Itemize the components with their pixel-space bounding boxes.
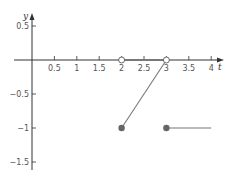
x-tick-label: 2.5 bbox=[138, 64, 151, 73]
y-tick-label: −0.5 bbox=[10, 90, 29, 99]
y-axis-title: y bbox=[22, 11, 29, 21]
y-tick-label: −1.5 bbox=[10, 158, 29, 167]
x-tick-label: 0.5 bbox=[48, 64, 61, 73]
x-tick-label: 2 bbox=[119, 64, 124, 73]
x-tick-label: 1.5 bbox=[93, 64, 106, 73]
axes: ty bbox=[14, 11, 224, 170]
x-tick-label: 3 bbox=[164, 64, 169, 73]
x-tick-label: 1 bbox=[74, 64, 79, 73]
x-axis-title: t bbox=[218, 62, 222, 72]
open-point-marker bbox=[163, 57, 169, 63]
piecewise-function-chart: ty 0.511.522.533.540.5−0.5−1−1.5 bbox=[0, 0, 243, 184]
x-tick-label: 3.5 bbox=[182, 64, 195, 73]
ticks: 0.511.522.533.540.5−0.5−1−1.5 bbox=[10, 22, 214, 167]
x-tick-label: 4 bbox=[209, 64, 214, 73]
closed-point-marker bbox=[118, 125, 124, 131]
y-axis-arrow-icon bbox=[30, 13, 35, 20]
y-tick-label: −1 bbox=[17, 124, 29, 133]
y-tick-label: 0.5 bbox=[16, 22, 29, 31]
open-point-marker bbox=[119, 57, 125, 63]
closed-point-marker bbox=[163, 125, 169, 131]
